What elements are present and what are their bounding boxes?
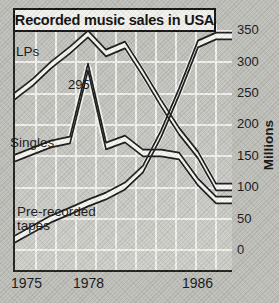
series-band-lps: [15, 34, 232, 187]
y-axis-label: Millions: [261, 120, 276, 170]
series-label-tapes-line1: Pre-recorded: [17, 204, 96, 219]
chart-title-box: Recorded music sales in USA: [13, 8, 216, 32]
xtick-1975: 1975: [11, 275, 42, 291]
ytick-50: 50: [237, 211, 251, 226]
ytick-100: 100: [237, 179, 259, 194]
series-label-singles: Singles: [10, 136, 54, 150]
ytick-150: 150: [237, 148, 259, 163]
ytick-250: 250: [237, 85, 259, 100]
annotation-295: 295: [68, 78, 90, 92]
ytick-200: 200: [237, 116, 259, 131]
xtick-1986: 1986: [182, 275, 213, 291]
ytick-300: 300: [237, 54, 259, 69]
ytick-0: 0: [237, 242, 244, 257]
series-label-lps: LPs: [16, 45, 39, 59]
ytick-350: 350: [237, 22, 259, 37]
series-label-tapes: Pre-recorded tapes: [17, 205, 96, 233]
page-title: Recorded music sales in USA: [15, 12, 214, 28]
chart-figure: Recorded music sales in USA: [0, 0, 279, 303]
series-outline-lps: [15, 31, 232, 191]
series-label-tapes-line2: tapes: [17, 218, 50, 233]
xtick-1978: 1978: [73, 275, 104, 291]
